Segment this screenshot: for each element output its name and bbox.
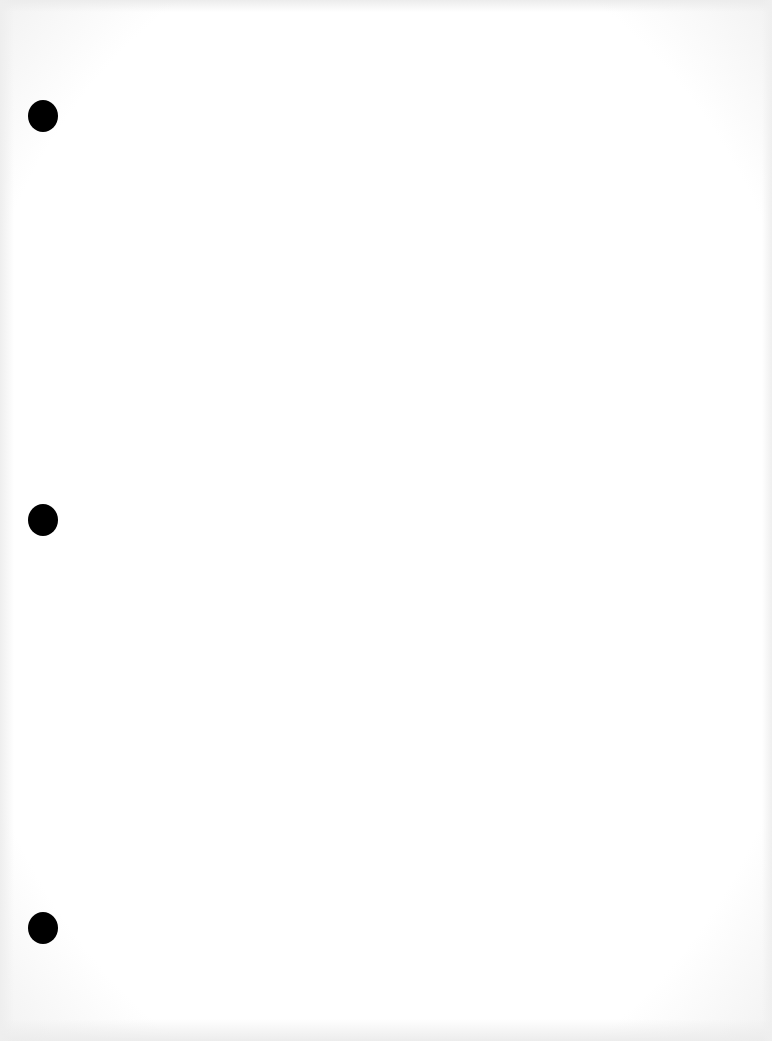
scan-edge-top bbox=[0, 0, 772, 12]
scan-edge-bottom bbox=[0, 1019, 772, 1041]
punch-hole-top bbox=[28, 100, 58, 132]
scanned-page bbox=[0, 0, 772, 1041]
scan-edge-right bbox=[762, 0, 772, 1041]
scan-edge-left bbox=[0, 0, 14, 1041]
punch-hole-bottom bbox=[28, 912, 58, 944]
punch-hole-middle bbox=[28, 504, 58, 536]
